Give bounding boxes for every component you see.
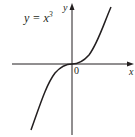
origin-label: 0 <box>74 66 79 76</box>
x-axis-label: x <box>129 67 133 77</box>
plot-area <box>0 0 135 137</box>
y-axis-arrow-icon <box>70 3 75 10</box>
cubic-curve <box>31 7 111 130</box>
equation-label: y = x3 <box>24 11 53 24</box>
cubic-graph: y = x3 y x 0 <box>0 0 135 137</box>
y-axis-label: y <box>63 3 67 13</box>
